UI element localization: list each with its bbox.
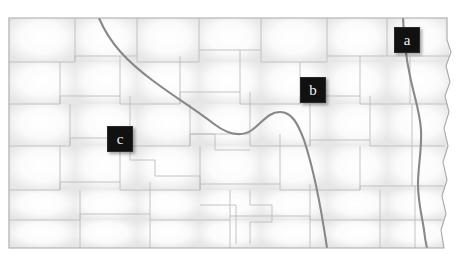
state-map-graphic [0,0,460,266]
map-marker-a[interactable]: a [394,27,420,53]
map-marker-b-label: b [309,83,317,98]
map-marker-b[interactable]: b [300,77,326,103]
state-body [0,0,460,266]
map-canvas: a b c [0,0,460,266]
map-marker-c-label: c [117,132,124,147]
map-marker-a-label: a [404,33,411,48]
map-marker-c[interactable]: c [107,126,133,152]
